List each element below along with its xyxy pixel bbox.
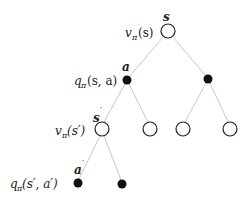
edge-s1-b2 — [104, 136, 121, 180]
next-q-arg: (s′, a′) — [22, 177, 58, 191]
edge-a2-s3 — [185, 83, 206, 122]
action-node-b1 — [74, 179, 83, 188]
action-node-a1 — [123, 76, 132, 85]
edge-a1-s1 — [104, 84, 125, 122]
root-value-func: v — [125, 26, 132, 40]
root-state-label: s — [163, 10, 170, 24]
backup-diagram: s v π (s) a q π (s, a) s ′ v π (s′) a ′ … — [0, 0, 251, 201]
next-action-prime: ′ — [82, 159, 84, 169]
next-state-prime: ′ — [100, 106, 102, 116]
edge-root-a1 — [130, 37, 163, 76]
next-state-label: s — [93, 111, 100, 125]
next-value-arg: (s′) — [67, 124, 86, 138]
action-label: a — [122, 60, 130, 74]
action-value-arg: (s, a) — [87, 74, 117, 88]
state-node-s2 — [143, 122, 157, 136]
edge-a2-s4 — [210, 83, 228, 122]
next-value-func: v — [55, 124, 62, 138]
action-value-sub: π — [80, 81, 87, 90]
edge-s1-b1 — [79, 136, 100, 179]
root-value-sub: π — [131, 33, 138, 42]
edge-a1-s2 — [129, 84, 148, 122]
root-value-arg: (s) — [138, 26, 154, 40]
action-node-b2 — [118, 180, 127, 189]
action-node-a2 — [204, 75, 213, 84]
state-node-s4 — [223, 122, 237, 136]
root-state-node — [161, 24, 175, 38]
edge-root-a2 — [173, 37, 205, 75]
next-action-label: a — [74, 163, 82, 177]
state-node-s3 — [176, 122, 190, 136]
